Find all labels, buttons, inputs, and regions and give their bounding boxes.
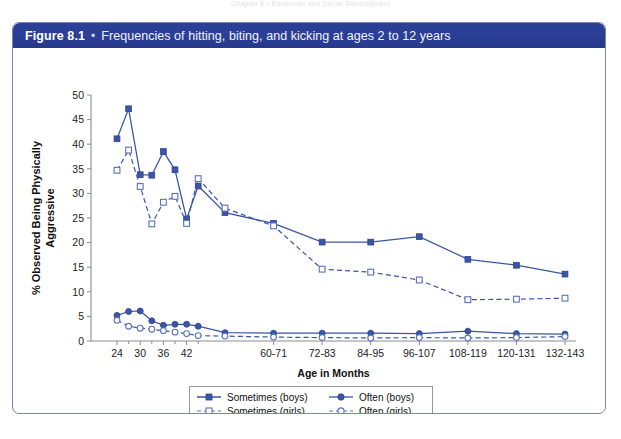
x-tick-label: 42: [181, 347, 193, 359]
data-point: [184, 331, 190, 337]
data-point: [562, 334, 568, 340]
x-tick-label: 108-119: [449, 347, 487, 359]
y-tick-label: 50: [72, 89, 84, 101]
line-chart: 05101520253035404550% Observed Being Phy…: [13, 48, 606, 414]
data-point: [137, 325, 143, 331]
data-point: [562, 295, 568, 301]
data-point: [172, 329, 178, 335]
y-tick-label: 40: [72, 138, 84, 150]
x-tick-label: 36: [158, 347, 170, 359]
y-tick-label: 15: [72, 261, 84, 273]
data-point: [465, 328, 471, 334]
y-tick-label: 20: [72, 236, 84, 248]
plot-area: 05101520253035404550% Observed Being Phy…: [13, 48, 606, 414]
y-tick-label: 25: [72, 212, 84, 224]
data-point: [416, 335, 422, 341]
data-point: [271, 223, 277, 229]
legend-row-2: Sometimes (girls) Often (girls): [196, 404, 426, 414]
chart-axes: [91, 95, 576, 341]
data-point: [161, 199, 167, 205]
data-point: [514, 262, 520, 268]
y-tick-label: 45: [72, 113, 84, 125]
data-point: [172, 167, 178, 173]
data-point: [368, 239, 374, 245]
data-point: [149, 172, 155, 178]
legend-item-sometimes-girls: Sometimes (girls): [196, 406, 328, 415]
data-point: [114, 167, 120, 173]
figure-title: Frequencies of hitting, biting, and kick…: [101, 29, 450, 43]
data-point: [195, 323, 201, 329]
data-point: [222, 333, 228, 339]
data-point: [562, 271, 568, 277]
legend-swatch-open-square-dashed: [196, 406, 222, 414]
legend-label: Sometimes (boys): [227, 392, 308, 403]
x-tick-label: 96-107: [403, 347, 436, 359]
y-tick-label: 5: [78, 310, 84, 322]
data-point: [114, 317, 120, 323]
x-tick-label: 60-71: [260, 347, 287, 359]
legend-swatch-filled-square-solid: [196, 392, 222, 402]
data-point: [126, 147, 132, 153]
y-axis-title-line2: Aggressive: [44, 188, 56, 247]
data-point: [465, 256, 471, 262]
x-tick-label: 132-143: [546, 347, 585, 359]
legend-item-often-boys: Often (boys): [328, 392, 414, 403]
data-point: [195, 333, 201, 339]
data-point: [161, 149, 167, 155]
data-point: [368, 269, 374, 275]
figure-number: Figure 8.1: [25, 29, 85, 43]
data-point: [319, 239, 325, 245]
legend-label: Often (boys): [359, 392, 414, 403]
bullet-separator-icon: •: [91, 30, 95, 42]
y-axis-title-line1: % Observed Being Physically: [30, 140, 42, 295]
data-point: [149, 318, 155, 324]
data-point: [126, 308, 132, 314]
legend-item-often-girls: Often (girls): [328, 406, 411, 415]
x-axis-title: Age in Months: [297, 367, 369, 379]
x-tick-label: 120-131: [497, 347, 536, 359]
y-tick-label: 30: [72, 187, 84, 199]
data-point: [149, 221, 155, 227]
legend-label: Often (girls): [359, 406, 411, 415]
data-point: [184, 221, 190, 227]
legend-swatch-filled-circle-solid: [328, 392, 354, 402]
data-point: [514, 335, 520, 341]
y-tick-label: 10: [72, 286, 84, 298]
data-point: [271, 334, 277, 340]
data-point: [149, 326, 155, 332]
legend-swatch-open-circle-dashed: [328, 406, 354, 414]
data-point: [137, 172, 143, 178]
data-point: [172, 321, 178, 327]
x-tick-label: 84-95: [357, 347, 384, 359]
series-often-girls: [114, 317, 568, 341]
data-point: [126, 106, 132, 112]
figure-header: Figure 8.1 • Frequencies of hitting, bit…: [13, 23, 605, 48]
x-tick-label: 30: [134, 347, 146, 359]
data-point: [195, 176, 201, 182]
y-tick-label: 35: [72, 163, 84, 175]
data-point: [465, 335, 471, 341]
legend-row-1: Sometimes (boys) Often (boys): [196, 390, 426, 404]
data-point: [222, 205, 228, 211]
series-sometimes-girls: [114, 147, 568, 302]
chart-legend: Sometimes (boys) Often (boys) Some: [189, 386, 433, 414]
data-point: [319, 335, 325, 341]
data-point: [416, 277, 422, 283]
legend-label: Sometimes (girls): [227, 406, 305, 415]
series-sometimes-boys: [114, 106, 568, 277]
figure-page: Chapter 8 • Emotional and Social Develop…: [0, 0, 621, 439]
data-point: [172, 193, 178, 199]
data-point: [184, 321, 190, 327]
legend-item-sometimes-boys: Sometimes (boys): [196, 392, 328, 403]
figure-box: Figure 8.1 • Frequencies of hitting, bit…: [12, 22, 606, 414]
data-point: [137, 184, 143, 190]
data-point: [161, 328, 167, 334]
data-point: [465, 297, 471, 303]
data-point: [416, 234, 422, 240]
data-point: [137, 308, 143, 314]
x-tick-label: 24: [111, 347, 123, 359]
x-tick-label: 72-83: [309, 347, 336, 359]
data-point: [514, 296, 520, 302]
data-point: [319, 266, 325, 272]
y-tick-label: 0: [78, 335, 84, 347]
